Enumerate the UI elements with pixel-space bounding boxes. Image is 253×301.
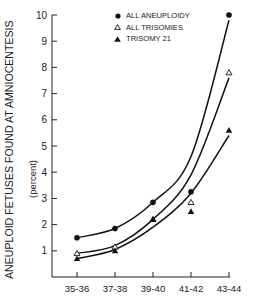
- data-point-trisomy-21: [226, 127, 232, 133]
- legend-label: TRISOMY 21: [126, 33, 171, 45]
- x-tick-label: 39-40: [141, 283, 166, 294]
- data-point-all-aneuploidy: [74, 235, 80, 241]
- y-tick-label: 9: [41, 36, 47, 47]
- legend-item-all-trisomies: ALL TRISOMIES: [113, 22, 190, 34]
- fitted-curve: [77, 136, 229, 259]
- x-tick-label: 37-38: [103, 283, 128, 294]
- y-tick-label: 7: [41, 88, 47, 99]
- legend-item-all-aneuploidy: ALL ANEUPLOIDY: [113, 10, 190, 22]
- legend: ALL ANEUPLOIDY ALL TRISOMIES TRISOMY 21: [113, 10, 190, 45]
- chart-canvas: 1234567891035-3637-3839-4041-4243-44: [0, 0, 253, 301]
- y-tick-label: 5: [41, 141, 47, 152]
- open-triangle-icon: [113, 24, 122, 30]
- filled-triangle-icon: [113, 36, 122, 42]
- y-tick-label: 4: [41, 167, 47, 178]
- y-tick-label: 3: [41, 193, 47, 204]
- filled-circle-icon: [113, 13, 122, 19]
- chart-axes: 1234567891035-3637-3839-4041-4243-44: [36, 10, 242, 295]
- data-point-all-aneuploidy: [112, 226, 118, 232]
- x-tick-label: 43-44: [217, 283, 242, 294]
- y-tick-label: 2: [41, 219, 47, 230]
- legend-label: ALL TRISOMIES: [126, 22, 183, 34]
- legend-label: ALL ANEUPLOIDY: [126, 10, 190, 22]
- y-tick-label: 10: [36, 10, 48, 21]
- legend-item-trisomy-21: TRISOMY 21: [113, 33, 190, 45]
- data-point-all-aneuploidy: [188, 189, 194, 195]
- y-axis-label: ANEUPLOID FETUSES FOUND AT AMNIOCENTESIS: [3, 20, 15, 279]
- y-tick-label: 6: [41, 114, 47, 125]
- y-tick-label: 8: [41, 62, 47, 73]
- y-tick-label: 1: [41, 245, 47, 256]
- y-axis-unit-label: (percent): [27, 160, 38, 198]
- data-points: [74, 12, 232, 261]
- fitted-curves: [77, 20, 229, 258]
- data-point-all-aneuploidy: [150, 200, 156, 206]
- data-point-trisomy-21: [188, 208, 194, 214]
- data-point-all-aneuploidy: [226, 12, 232, 18]
- data-point-all-trisomies: [188, 199, 194, 204]
- data-point-all-trisomies: [226, 70, 232, 75]
- x-tick-label: 41-42: [179, 283, 204, 294]
- x-tick-label: 35-36: [65, 283, 90, 294]
